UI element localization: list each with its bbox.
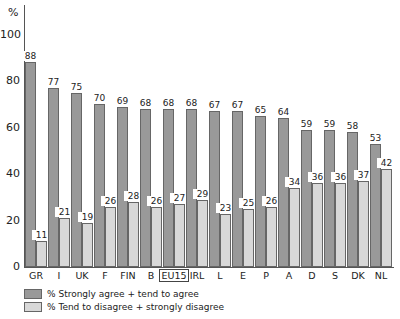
value-label: 75 <box>67 82 87 92</box>
legend-swatch-disagree <box>24 302 42 312</box>
bar-chart: % 0204060801008811GR7721I7519UK7026F6928… <box>0 0 400 280</box>
y-tick-label: 20 <box>0 214 20 227</box>
value-label: 42 <box>377 158 397 168</box>
legend-label-agree: % Strongly agree + tend to agree <box>47 289 199 299</box>
agree-bar-i <box>48 88 59 267</box>
agree-bar-uk <box>71 93 82 267</box>
agree-bar-fin <box>117 107 128 267</box>
value-label: 68 <box>136 98 156 108</box>
value-label: 70 <box>90 93 110 103</box>
y-tick-label: 100 <box>0 28 20 41</box>
legend-item-agree: % Strongly agree + tend to agree <box>24 287 224 300</box>
disagree-bar-d <box>312 183 323 267</box>
disagree-bar-uk <box>82 223 93 267</box>
agree-bar-dk <box>347 132 358 267</box>
agree-bar-f <box>94 104 105 267</box>
agree-bar-l <box>209 111 220 267</box>
value-label: 59 <box>297 119 317 129</box>
disagree-bar-p <box>266 207 277 267</box>
legend: % Strongly agree + tend to agree % Tend … <box>24 287 224 313</box>
disagree-bar-b <box>151 207 162 267</box>
disagree-bar-a <box>289 188 300 267</box>
value-label: 88 <box>21 51 41 61</box>
value-label: 67 <box>228 100 248 110</box>
disagree-bar-i <box>59 218 70 267</box>
agree-bar-eu15 <box>163 109 174 267</box>
disagree-bar-dk <box>358 181 369 267</box>
y-tick-label: 60 <box>0 121 20 134</box>
value-label: 53 <box>366 133 386 143</box>
value-label: 59 <box>320 119 340 129</box>
legend-label-disagree: % Tend to disagree + strongly disagree <box>47 302 224 312</box>
disagree-bar-fin <box>128 202 139 267</box>
agree-bar-b <box>140 109 151 267</box>
agree-bar-s <box>324 130 335 267</box>
y-tick-label: 0 <box>0 260 20 273</box>
y-tick-label: 40 <box>0 167 20 180</box>
disagree-bar-irl <box>197 200 208 267</box>
value-label: 65 <box>251 105 271 115</box>
value-label: 58 <box>343 121 363 131</box>
disagree-bar-nl <box>381 169 392 267</box>
value-label: 69 <box>113 96 133 106</box>
agree-bar-d <box>301 130 312 267</box>
value-label: 64 <box>274 107 294 117</box>
value-label: 77 <box>44 77 64 87</box>
disagree-bar-e <box>243 209 254 267</box>
value-label: 68 <box>159 98 179 108</box>
value-label: 68 <box>182 98 202 108</box>
y-axis-unit: % <box>8 6 18 19</box>
legend-item-disagree: % Tend to disagree + strongly disagree <box>24 300 224 313</box>
agree-bar-a <box>278 118 289 267</box>
agree-bar-p <box>255 116 266 267</box>
x-axis-line <box>24 267 394 268</box>
disagree-bar-s <box>335 183 346 267</box>
disagree-bar-f <box>105 207 116 267</box>
agree-bar-e <box>232 111 243 267</box>
x-tick-label-nl: NL <box>366 270 396 281</box>
disagree-bar-l <box>220 214 231 267</box>
value-label: 67 <box>205 100 225 110</box>
disagree-bar-eu15 <box>174 204 185 267</box>
legend-swatch-agree <box>24 289 42 299</box>
disagree-bar-gr <box>36 241 47 267</box>
y-tick-label: 80 <box>0 74 20 87</box>
